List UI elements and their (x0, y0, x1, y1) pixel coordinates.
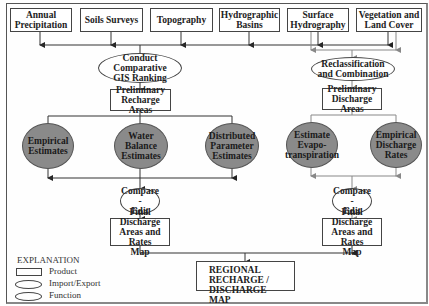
function-label: Estimate Evapo- transpiration (285, 130, 339, 160)
function-label: Water Balance Estimates (115, 131, 167, 161)
product-label: Preliminary Discharge Areas (323, 84, 381, 114)
legend-title: EXPLANATION (17, 255, 80, 265)
process-label: Conduct Comparative GIS Ranking (113, 53, 167, 83)
input-label: Vegetation and Land Cover (359, 10, 420, 30)
preliminary-discharge-areas-product: Preliminary Discharge Areas (322, 88, 382, 110)
legend-product-label: Product (49, 266, 77, 276)
input-label: Annual Precipitation (15, 10, 68, 30)
input-topography: Topography (150, 8, 213, 32)
product-label: Preliminary Recharge Areas (111, 85, 170, 115)
input-label: Soils Surveys (85, 15, 139, 25)
function-label: Empirical Estimates (28, 136, 69, 156)
preliminary-recharge-areas-product: Preliminary Recharge Areas (110, 89, 171, 111)
input-surface-hydrography: Surface Hydrography (287, 8, 349, 32)
input-soils-surveys: Soils Surveys (80, 8, 143, 32)
empirical-estimates-function: Empirical Estimates (22, 123, 74, 169)
regional-recharge-discharge-map-product: REGIONAL RECHARGE / DISCHARGE MAP (196, 261, 295, 291)
legend-import-export-ellipse-icon (15, 280, 42, 289)
input-label: Topography (157, 15, 206, 25)
final-areas-rates-map-right-product: Final Discharge Areas and Rates Map (322, 218, 382, 246)
input-label: Surface Hydrography (290, 10, 345, 30)
function-label: Empirical Discharge Rates (376, 130, 417, 160)
input-label: Hydrographic Basins (221, 10, 278, 30)
product-label: Final Discharge Areas and Rates Map (111, 207, 169, 257)
product-label: Final Discharge Areas and Rates Map (323, 207, 381, 257)
input-annual-precipitation: Annual Precipitation (10, 8, 72, 32)
empirical-discharge-rates-function: Empirical Discharge Rates (370, 122, 422, 168)
legend-function-label: Function (49, 290, 81, 300)
input-vegetation-land-cover: Vegetation and Land Cover (356, 8, 422, 32)
distributed-parameter-estimates-function: Distributed Parameter Estimates (205, 123, 259, 169)
function-label: Distributed Parameter Estimates (209, 131, 255, 161)
process-label: Reclassification and Combination (317, 59, 388, 79)
estimate-evapotranspiration-function: Estimate Evapo- transpiration (286, 122, 338, 168)
water-balance-estimates-function: Water Balance Estimates (114, 123, 168, 169)
legend-function-ellipse-icon (15, 292, 42, 301)
input-hydrographic-basins: Hydrographic Basins (219, 8, 280, 32)
final-areas-rates-map-left-product: Final Discharge Areas and Rates Map (110, 218, 170, 246)
legend-product-rect-icon (16, 268, 42, 276)
reclassification-combination-process: Reclassification and Combination (311, 57, 395, 81)
legend-import-export-label: Import/Export (49, 278, 101, 288)
conduct-gis-ranking-process: Conduct Comparative GIS Ranking (98, 53, 182, 83)
